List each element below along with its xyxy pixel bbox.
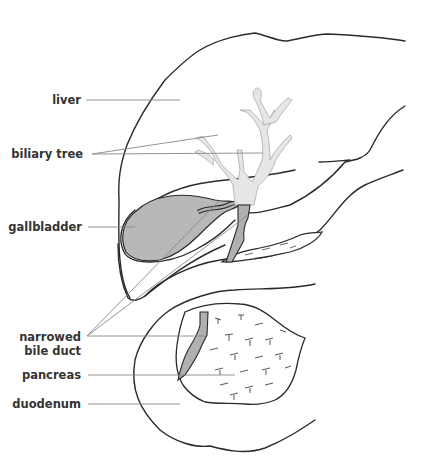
biliary-tree: [195, 88, 292, 205]
label-gallbladder: gallbladder: [8, 220, 82, 234]
label-biliary-tree: biliary tree: [11, 147, 83, 161]
label-liver: liver: [52, 93, 81, 107]
label-duodenum: duodenum: [12, 397, 81, 411]
label-pancreas: pancreas: [22, 368, 81, 382]
label-bile-duct: bile duct: [24, 344, 81, 358]
label-narrowed: narrowed: [19, 330, 81, 344]
